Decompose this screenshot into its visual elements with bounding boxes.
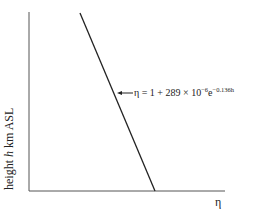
x-axis-label: η: [215, 195, 221, 210]
chart-canvas: [0, 0, 270, 210]
arrowhead-icon: [117, 91, 122, 95]
y-axis-label: height h km ASL: [2, 108, 17, 190]
eta-curve: [80, 13, 155, 191]
formula-annotation: η = 1 + 289 × 10−6e−0.136h: [134, 86, 234, 98]
